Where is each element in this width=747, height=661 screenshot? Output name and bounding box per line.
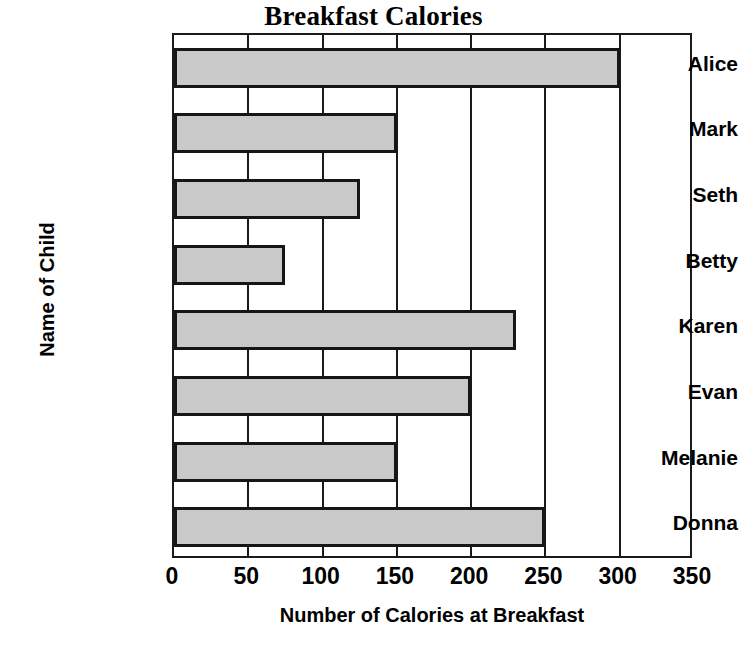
y-axis-title: Name of Child	[36, 190, 59, 390]
y-tick-label-betty: Betty	[587, 249, 747, 273]
y-tick-label-alice: Alice	[587, 52, 747, 76]
bar-evan	[174, 376, 471, 416]
y-tick-label-mark: Mark	[587, 117, 747, 141]
bar-alice	[174, 48, 620, 88]
bar-seth	[174, 179, 360, 219]
x-tick-label-350: 350	[652, 563, 732, 590]
bars-layer	[174, 35, 690, 556]
x-tick-label-150: 150	[355, 563, 435, 590]
y-tick-label-karen: Karen	[587, 314, 747, 338]
y-tick-label-evan: Evan	[587, 380, 747, 404]
y-tick-label-donna: Donna	[587, 511, 747, 535]
x-tick-label-300: 300	[578, 563, 658, 590]
chart-title: Breakfast Calories	[0, 1, 747, 32]
x-tick-label-200: 200	[429, 563, 509, 590]
x-axis-title: Number of Calories at Breakfast	[172, 604, 692, 627]
chart-page: Breakfast Calories AliceMarkSethBettyKar…	[0, 0, 747, 661]
x-tick-label-50: 50	[206, 563, 286, 590]
bar-donna	[174, 507, 545, 547]
bar-melanie	[174, 442, 397, 482]
bar-karen	[174, 310, 516, 350]
bar-betty	[174, 245, 285, 285]
x-tick-label-250: 250	[503, 563, 583, 590]
plot-area	[172, 33, 692, 558]
y-tick-label-seth: Seth	[587, 183, 747, 207]
bar-mark	[174, 113, 397, 153]
x-tick-label-0: 0	[132, 563, 212, 590]
x-tick-label-100: 100	[281, 563, 361, 590]
y-tick-label-melanie: Melanie	[587, 446, 747, 470]
